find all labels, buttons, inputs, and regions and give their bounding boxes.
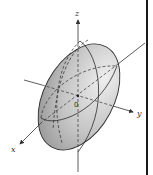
x-axis-front [20, 122, 42, 144]
y-axis-front [113, 106, 133, 112]
y-axis-label: y [136, 109, 142, 118]
ellipsoid-diagram: z x y 0 [0, 0, 153, 175]
z-axis-label: z [74, 9, 80, 18]
x-axis-label: x [11, 145, 16, 154]
y-axis-back [24, 80, 42, 85]
origin-point [77, 95, 79, 97]
ellipsoid [21, 30, 136, 164]
ellipsoid-surface [21, 30, 136, 164]
x-axis-back [118, 43, 145, 64]
origin-label: 0 [74, 101, 78, 109]
right-border-line [146, 0, 148, 175]
